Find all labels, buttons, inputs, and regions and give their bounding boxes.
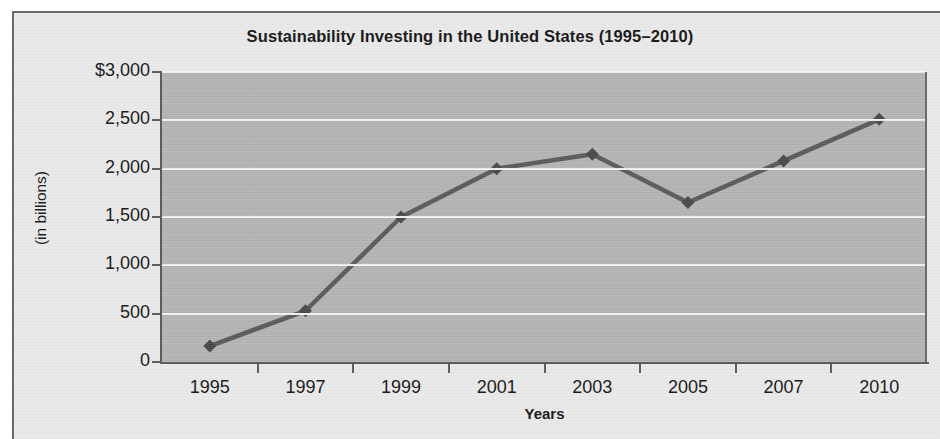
gridline [162, 313, 925, 315]
y-axis-tick-mark [152, 71, 161, 73]
chart-title: Sustainability Investing in the United S… [14, 27, 926, 46]
data-point-marker [777, 154, 790, 167]
y-axis-tick-mark [152, 361, 161, 363]
y-axis-tick-label: 2,500 [30, 108, 150, 129]
y-axis-tick-label: 0 [30, 350, 150, 371]
x-axis-tick-label: 1997 [250, 377, 360, 398]
x-axis-tick-label: 1995 [155, 377, 265, 398]
y-axis-tick-label: $3,000 [30, 60, 150, 81]
y-axis-tick-labels: 05001,0001,5002,0002,500$3,000 [22, 13, 150, 439]
x-axis-tick-label: 2007 [729, 377, 839, 398]
x-axis-tick-mark [544, 364, 546, 373]
x-axis-tick-label: 2001 [442, 377, 552, 398]
data-point-marker [203, 340, 216, 353]
x-axis-tick-mark [448, 364, 450, 373]
gridline [162, 71, 925, 73]
gridline [162, 168, 925, 170]
y-axis-tick-label: 2,000 [30, 157, 150, 178]
gridline [162, 216, 925, 218]
y-axis-tick-mark [152, 264, 161, 266]
x-axis-tick-mark [352, 364, 354, 373]
y-axis-tick-mark [152, 216, 161, 218]
x-axis-tick-mark [639, 364, 641, 373]
y-axis-tick-label: 1,000 [30, 253, 150, 274]
x-axis-tick-mark [830, 364, 832, 373]
x-axis-tick-label: 2003 [537, 377, 647, 398]
chart-figure: Sustainability Investing in the United S… [12, 11, 940, 439]
y-axis-tick-mark [152, 119, 161, 121]
x-axis-tick-label: 2010 [824, 377, 934, 398]
y-axis-tick-mark [152, 168, 161, 170]
x-axis-tick-mark [735, 364, 737, 373]
plot-area [162, 72, 927, 362]
x-axis-tick-label: 1999 [346, 377, 456, 398]
x-axis-tick-mark [257, 364, 259, 373]
x-axis-tick-label: 2005 [633, 377, 743, 398]
y-axis-tick-mark [152, 313, 161, 315]
x-axis-title: Years [162, 405, 927, 422]
gridline [162, 264, 925, 266]
y-axis-tick-label: 500 [30, 302, 150, 323]
y-axis-tick-label: 1,500 [30, 205, 150, 226]
gridline [162, 119, 925, 121]
